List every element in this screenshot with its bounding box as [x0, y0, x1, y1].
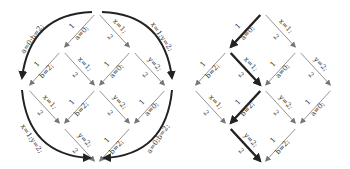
right-edge-thread-1: 2: [272, 33, 281, 42]
right-edge-thread-6: 2: [202, 109, 211, 118]
left-edge-thread-1: 2: [106, 33, 115, 42]
right-edge-stmt-10: y=2;: [241, 131, 259, 149]
left-edge-thread-3: 2: [71, 71, 80, 80]
left-edge-thread-11: 1: [103, 136, 112, 145]
right-diagram: a=0;1x=1;2b=2;1x=1;2a=0;1y=2;2x=1;2b=2;1…: [196, 15, 331, 161]
right-edge-thread-9: 1: [304, 98, 313, 107]
right-edge-thread-2: 1: [199, 60, 208, 69]
left-edge-stmt-10: y=2;: [75, 131, 93, 149]
left-edge-stmt-8: y=2;: [110, 93, 128, 111]
left-edge-stmt-6: x=1;: [41, 93, 58, 111]
right-edge-stmt-1: x=1;: [277, 17, 294, 35]
right-edge-stmt-3: x=1;: [242, 55, 259, 73]
right-edge-thread-7: 1: [234, 98, 243, 107]
right-edge-stmt-6: x=1;: [207, 93, 224, 111]
left-arc-bottom-left: [22, 90, 90, 158]
left-edge-thread-6: 2: [36, 109, 45, 118]
left-edge-thread-7: 1: [68, 98, 77, 107]
right-edge-stmt-5: y=2;: [311, 55, 329, 73]
left-edge-stmt-1: x=1;: [111, 17, 128, 35]
left-edge-thread-5: 2: [141, 71, 150, 80]
left-edge-thread-8: 2: [106, 109, 115, 118]
left-diagram: a=0;1x=1;2b=2;1x=1;2a=0;1y=2;2x=1;2b=2;1…: [19, 12, 175, 161]
left-edge-thread-10: 2: [71, 147, 80, 156]
right-edge-thread-10: 2: [237, 147, 246, 156]
right-edge-thread-3: 2: [237, 71, 246, 80]
right-edge-thread-4: 1: [269, 60, 278, 69]
left-edge-thread-4: 1: [103, 60, 112, 69]
right-edge-thread-5: 2: [307, 71, 316, 80]
left-edge-thread-2: 1: [33, 60, 42, 69]
right-edge-thread-8: 2: [272, 109, 281, 118]
right-edge-thread-11: 1: [269, 136, 278, 145]
left-edge-stmt-3: x=1;: [76, 55, 93, 73]
left-edge-thread-0: 1: [68, 22, 77, 31]
left-edge-stmt-5: y=2;: [145, 55, 163, 73]
right-edge-stmt-8: y=2;: [276, 93, 294, 111]
left-arc-label-3: a=0;b=2;: [145, 123, 171, 155]
left-edge-thread-9: 1: [138, 98, 147, 107]
interleaving-diagrams: a=0;1x=1;2b=2;1x=1;2a=0;1y=2;2x=1;2b=2;1…: [0, 0, 350, 169]
left-arc-label-1: x=1;y=2;: [149, 21, 175, 53]
right-edge-thread-0: 1: [234, 22, 243, 31]
left-arc-label-0: a=0;b=2;: [19, 23, 45, 55]
